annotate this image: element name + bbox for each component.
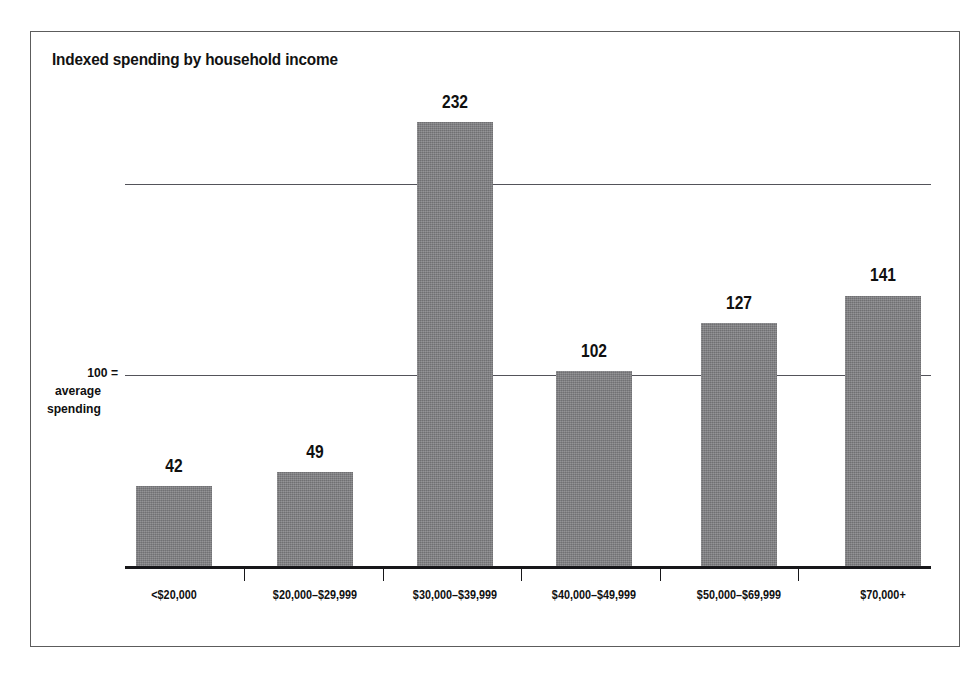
- x-axis-tick: [798, 568, 799, 581]
- x-axis-tick: [244, 568, 245, 581]
- chart-page: Indexed spending by household income 42 …: [0, 0, 979, 679]
- gridline-200: [125, 184, 931, 185]
- bar-4[interactable]: [701, 323, 777, 566]
- x-axis-label-1: $20,000–$29,999: [260, 588, 369, 602]
- x-axis-tick: [383, 568, 384, 581]
- x-axis-tick: [521, 568, 522, 581]
- baseline-annotation: 100 = average spending: [0, 364, 118, 418]
- baseline-annotation-line3: spending: [0, 400, 118, 418]
- gridline-100: [125, 375, 931, 376]
- bar-value-label: 232: [424, 91, 486, 113]
- bar-0[interactable]: [136, 486, 212, 566]
- bar-value-label: 127: [708, 292, 770, 314]
- bar-2[interactable]: [417, 122, 493, 566]
- bar-value-label: 141: [852, 264, 914, 286]
- bar-5[interactable]: [845, 296, 921, 566]
- bar-value-label: 49: [284, 441, 346, 463]
- x-axis-tick: [660, 568, 661, 581]
- x-axis-label-4: $50,000–$69,999: [684, 588, 793, 602]
- bar-value-label: 102: [563, 340, 625, 362]
- x-axis-line: [125, 566, 931, 569]
- baseline-annotation-line2: average: [0, 382, 118, 400]
- plot-area: 42 49 232 102 127 141 <$20,000 $20,000–$…: [0, 0, 979, 679]
- x-axis-label-2: $30,000–$39,999: [400, 588, 509, 602]
- x-axis-label-0: <$20,000: [119, 588, 228, 602]
- bar-value-label: 42: [143, 455, 205, 477]
- x-axis-label-3: $40,000–$49,999: [539, 588, 648, 602]
- bar-3[interactable]: [556, 371, 632, 566]
- baseline-annotation-line1: 100 =: [0, 364, 118, 382]
- bar-1[interactable]: [277, 472, 353, 566]
- x-axis-label-5: $70,000+: [828, 588, 937, 602]
